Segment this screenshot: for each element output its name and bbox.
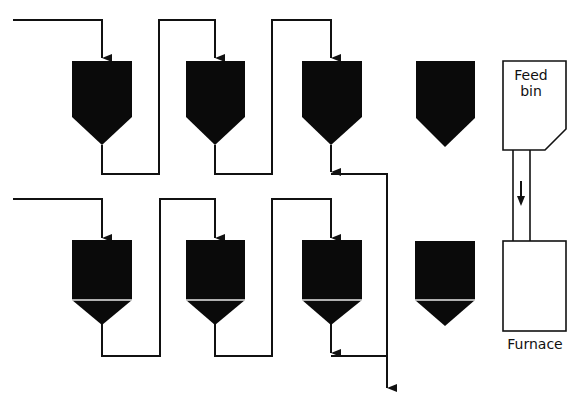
hopper-bottom-2 (186, 240, 245, 325)
furnace (503, 241, 566, 331)
down-arrow-icon (517, 181, 525, 206)
hopper-bottom-4 (415, 241, 475, 326)
feed-bin-label: Feed bin (508, 67, 554, 99)
hopper-top-4 (416, 61, 475, 147)
feed-bin-label-line2: bin (508, 83, 554, 99)
feed-bin-label-line1: Feed (508, 67, 554, 83)
top-row-hoppers (72, 61, 475, 147)
hopper-bottom-1 (72, 240, 132, 325)
bottom-row-hoppers (72, 240, 475, 326)
hopper-bottom-3 (302, 240, 362, 325)
furnace-label: Furnace (495, 336, 575, 352)
hopper-top-1 (72, 61, 132, 145)
hopper-top-2 (186, 61, 245, 145)
process-diagram (0, 0, 579, 395)
hopper-top-3 (302, 61, 362, 145)
